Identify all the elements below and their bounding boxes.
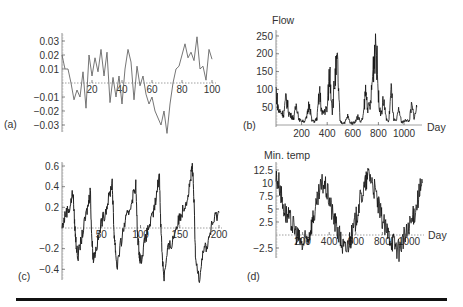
data-series-line: [62, 37, 212, 134]
y-tick-label: −2.5: [253, 243, 273, 254]
data-series-line: [62, 163, 219, 282]
x-axis-label: Day: [428, 229, 447, 241]
x-tick-label: 1000: [393, 128, 416, 139]
x-tick-label: 40: [116, 84, 128, 95]
x-tick-label: 800: [374, 236, 391, 247]
y-tick-label: −0.2: [39, 243, 59, 254]
x-tick-label: 600: [344, 128, 361, 139]
x-tick-label: 20: [86, 84, 98, 95]
x-tick-label: 400: [319, 128, 336, 139]
x-tick-label: 1000: [398, 236, 421, 247]
x-tick-label: 100: [204, 84, 221, 95]
y-tick-label: −0.02: [34, 106, 60, 117]
x-tick-label: 200: [211, 229, 228, 240]
x-tick-label: 400: [321, 236, 338, 247]
y-axis-label: Flow: [272, 14, 295, 26]
y-tick-label: 200: [256, 48, 273, 59]
panel-d: −2.52.557.51012.52004006008001000(d)Min.…: [247, 149, 447, 282]
y-tick-label: 0.4: [45, 181, 59, 192]
y-tick-label: 250: [256, 31, 273, 42]
y-tick-label: 100: [256, 84, 273, 95]
x-tick-label: 80: [176, 84, 188, 95]
y-tick-label: 0.03: [40, 36, 60, 47]
y-tick-label: 10: [262, 178, 274, 189]
panel-label: (d): [247, 270, 260, 282]
x-tick-label: 60: [146, 84, 158, 95]
panel-label: (c): [18, 270, 30, 282]
x-tick-label: 200: [293, 128, 310, 139]
y-tick-label: 150: [256, 66, 273, 77]
y-tick-label: −0.01: [34, 92, 60, 103]
y-tick-label: 7.5: [259, 191, 273, 202]
y-tick-label: −0.03: [34, 120, 60, 131]
y-tick-label: 12.5: [254, 165, 274, 176]
panel-label: (a): [4, 118, 17, 130]
y-tick-label: 50: [262, 102, 274, 113]
y-tick-label: 5: [267, 204, 273, 215]
y-tick-label: 0.01: [40, 64, 60, 75]
y-tick-label: 0.02: [40, 50, 60, 61]
bottom-rule: [16, 298, 447, 301]
panel-b: 501001502002502004006008001000(b)FlowDay: [243, 14, 446, 139]
panel-a: −0.03−0.02−0.010.010.020.0320406080100(a…: [4, 33, 221, 133]
figure-canvas: −0.03−0.02−0.010.010.020.0320406080100(a…: [0, 0, 463, 307]
y-tick-label: 2.5: [259, 217, 273, 228]
x-axis-label: Day: [427, 121, 446, 133]
y-tick-label: 0.2: [45, 202, 59, 213]
data-series-line: [276, 168, 422, 262]
x-tick-label: 800: [370, 128, 387, 139]
panel-label: (b): [243, 119, 256, 131]
data-series-line: [276, 34, 417, 125]
y-tick-label: 0.6: [45, 161, 59, 172]
y-axis-label: Min. temp: [264, 149, 310, 161]
y-tick-label: −0.4: [39, 264, 59, 275]
panel-c: −0.4−0.20.20.40.650100150200(c): [18, 161, 228, 283]
